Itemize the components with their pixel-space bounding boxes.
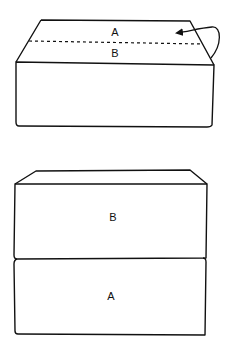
step1-label-b: B — [111, 47, 118, 59]
fold-line-dashed — [29, 41, 203, 44]
step2-label-a: A — [107, 290, 115, 302]
step1-label-a: A — [111, 26, 119, 38]
folding-diagram: A B B A — [0, 0, 232, 350]
step2-label-b: B — [109, 211, 116, 223]
step1-front-box — [16, 62, 214, 127]
step1-figure: A B — [16, 20, 219, 127]
fold-arrow-icon — [177, 27, 219, 58]
step2-figure: B A — [14, 170, 207, 335]
step2-top-bevel — [15, 170, 207, 184]
